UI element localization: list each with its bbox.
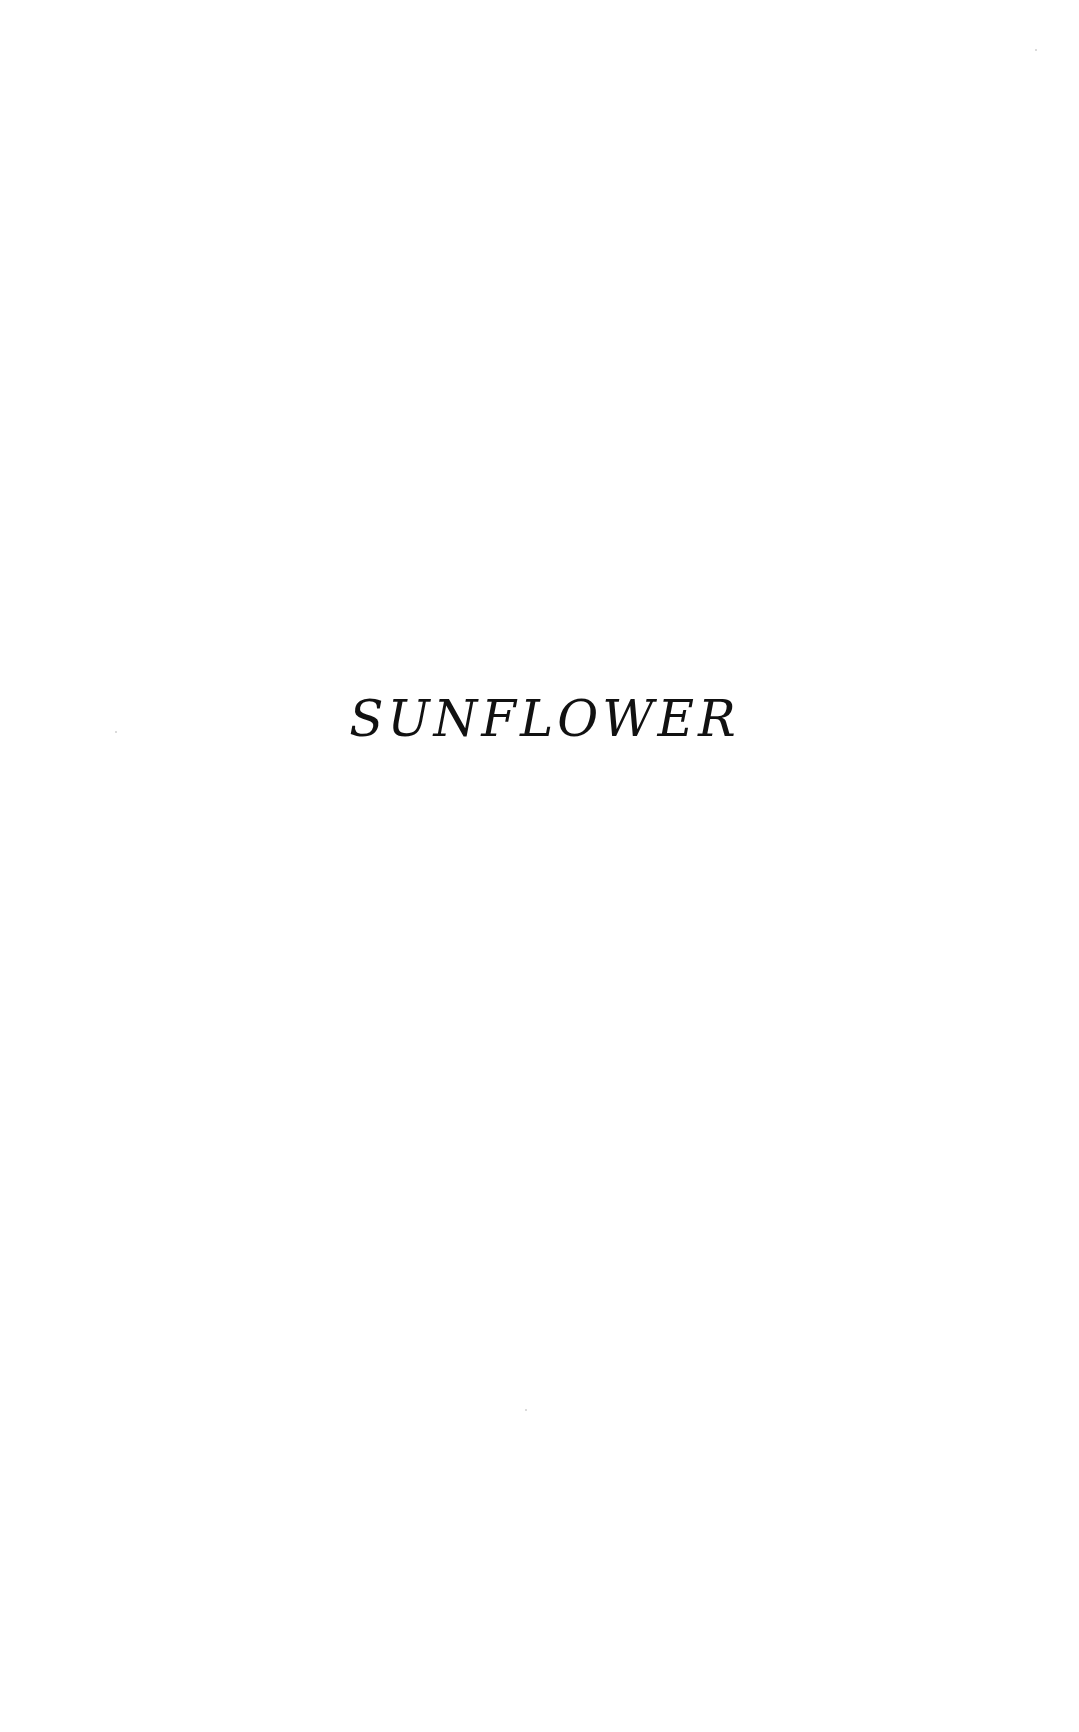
scan-speck	[1035, 49, 1037, 51]
half-title: SUNFLOWER	[0, 689, 1079, 749]
scan-speck	[525, 1409, 527, 1411]
scan-speck	[115, 731, 117, 733]
book-page: SUNFLOWER	[0, 0, 1079, 1732]
